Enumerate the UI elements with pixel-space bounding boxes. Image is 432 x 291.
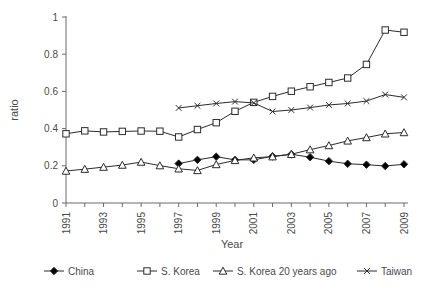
x-tick-label: 1993 xyxy=(98,212,109,235)
legend-item-s-korea-20-years-ago[interactable]: S. Korea 20 years ago xyxy=(213,266,337,277)
data-point-open-square xyxy=(401,29,407,35)
data-point-filled-diamond xyxy=(306,154,313,161)
series-s-korea xyxy=(63,27,407,140)
data-point-open-square xyxy=(100,129,106,135)
x-tick-label: 1999 xyxy=(211,212,222,235)
data-point-open-square xyxy=(144,268,150,274)
data-point-open-square xyxy=(213,119,219,125)
data-point-open-square xyxy=(326,79,332,85)
data-point-filled-diamond xyxy=(325,157,332,164)
data-point-filled-diamond xyxy=(400,161,407,168)
data-point-filled-diamond xyxy=(363,161,370,168)
data-point-open-square xyxy=(138,128,144,134)
series-container xyxy=(62,27,408,174)
y-tick-label: 0 xyxy=(52,198,58,209)
data-point-open-square xyxy=(194,126,200,132)
legend-label: S. Korea 20 years ago xyxy=(237,266,337,277)
y-tick-label: 0.2 xyxy=(44,160,58,171)
series-taiwan xyxy=(176,92,407,115)
data-point-filled-diamond xyxy=(213,153,220,160)
legend-label: China xyxy=(68,266,95,277)
legend-item-s-korea[interactable]: S. Korea xyxy=(137,266,200,277)
series-s-korea-20-years-ago xyxy=(62,129,408,175)
data-point-open-square xyxy=(344,75,350,81)
data-point-filled-diamond xyxy=(50,267,57,274)
legend-item-china[interactable]: China xyxy=(44,266,95,277)
x-tick-label: 2003 xyxy=(286,212,297,235)
data-point-open-square xyxy=(363,61,369,67)
data-point-filled-diamond xyxy=(382,162,389,169)
y-axis-title: ratio xyxy=(8,99,20,120)
data-point-open-square xyxy=(82,128,88,134)
y-axis: 00.20.40.60.81 xyxy=(44,12,66,209)
data-point-open-square xyxy=(307,84,313,90)
data-point-filled-diamond xyxy=(344,160,351,167)
chart-legend: ChinaS. KoreaS. Korea 20 years agoTaiwan xyxy=(44,266,412,277)
legend-label: S. Korea xyxy=(161,266,200,277)
line-chart: 00.20.40.60.81 1991199319951997199920012… xyxy=(0,0,432,291)
y-tick-label: 0.4 xyxy=(44,123,58,134)
x-tick-label: 2009 xyxy=(399,212,410,235)
y-tick-label: 0.6 xyxy=(44,86,58,97)
data-point-open-square xyxy=(232,108,238,114)
x-tick-label: 1995 xyxy=(136,212,147,235)
data-point-open-square xyxy=(175,134,181,140)
data-point-open-square xyxy=(119,128,125,134)
x-tick-label: 1997 xyxy=(173,212,184,235)
data-point-filled-diamond xyxy=(194,156,201,163)
y-tick-label: 0.8 xyxy=(44,49,58,60)
y-tick-label: 1 xyxy=(52,12,58,23)
x-axis: 1991199319951997199920012003200520072009 xyxy=(61,203,410,234)
legend-item-taiwan[interactable]: Taiwan xyxy=(357,266,412,277)
data-point-open-square xyxy=(157,128,163,134)
x-tick-label: 2007 xyxy=(361,212,372,235)
x-tick-label: 1991 xyxy=(61,212,72,235)
x-tick-label: 2005 xyxy=(323,212,334,235)
data-point-open-square xyxy=(288,88,294,94)
x-tick-label: 2001 xyxy=(248,212,259,235)
data-point-open-triangle xyxy=(137,158,145,165)
x-axis-title: Year xyxy=(221,238,244,250)
data-point-open-square xyxy=(382,27,388,33)
chart-figure: 00.20.40.60.81 1991199319951997199920012… xyxy=(0,0,432,291)
legend-label: Taiwan xyxy=(381,266,412,277)
data-point-open-square xyxy=(269,93,275,99)
data-point-open-square xyxy=(63,131,69,137)
